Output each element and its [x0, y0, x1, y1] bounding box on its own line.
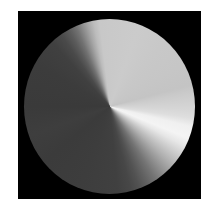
grayscale-wedge-disk [24, 19, 195, 194]
